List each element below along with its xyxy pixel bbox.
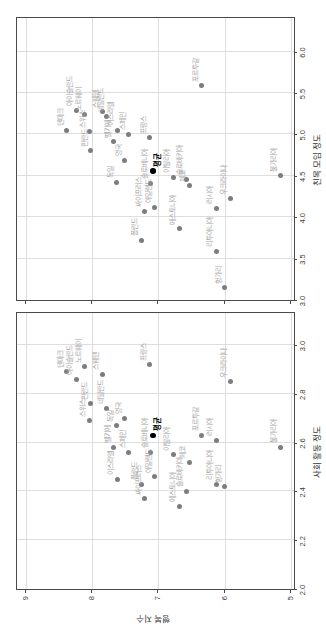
point-label: 스웨덴 bbox=[92, 352, 99, 370]
x-tick-label: 3.0 bbox=[298, 296, 307, 306]
x-tick-mark bbox=[294, 176, 297, 177]
data-point bbox=[114, 180, 119, 185]
point-label: 스위스 bbox=[79, 399, 86, 417]
x-gridline bbox=[17, 393, 294, 394]
y-tick-mark bbox=[290, 590, 291, 593]
x-tick-label: 2.4 bbox=[298, 487, 307, 497]
scatter-figure: 덴마크아이슬란드노르웨이스위스핀란드스웨덴네덜란드벨기에독일이스라엘영국스페인폴… bbox=[0, 0, 326, 632]
y-tick-mark bbox=[157, 301, 158, 304]
x-gridline bbox=[17, 442, 294, 443]
point-label: 헝가리 bbox=[215, 266, 222, 284]
point-label: 핀란드 bbox=[81, 382, 88, 400]
point-label: 불가리아 bbox=[270, 419, 277, 443]
data-point bbox=[177, 226, 182, 231]
data-point bbox=[82, 364, 87, 369]
data-point bbox=[126, 132, 131, 137]
data-point bbox=[214, 438, 219, 443]
screenshot-root: { "figure": { "colors": { "dot": "#7d7d7… bbox=[0, 0, 326, 632]
data-point bbox=[214, 249, 219, 254]
y-gridline bbox=[26, 313, 27, 589]
point-label: 체코 bbox=[179, 446, 186, 458]
point-label: 프랑스 bbox=[140, 116, 147, 134]
plot-area-social-gathering: 덴마크아이슬란드노르웨이스위스핀란드스웨덴네덜란드벨기에독일이스라엘영국스페인폴… bbox=[16, 17, 295, 301]
point-label: 이스라엘 bbox=[107, 451, 114, 475]
point-label: 리투아니아 bbox=[206, 217, 213, 247]
data-point bbox=[278, 173, 283, 178]
y-tick-mark bbox=[224, 301, 225, 304]
x-gridline bbox=[17, 490, 294, 491]
data-point bbox=[147, 135, 152, 140]
point-label: 이스라엘 bbox=[107, 102, 114, 126]
point-label: 스페인 bbox=[119, 112, 126, 130]
data-point bbox=[122, 158, 127, 163]
y-tick-label: 6 bbox=[219, 596, 228, 620]
point-label: 싸이프러스 bbox=[135, 177, 142, 207]
point-label: 헝가리 bbox=[215, 465, 222, 483]
point-label: 아일랜드 bbox=[145, 449, 152, 473]
point-label: 독일 bbox=[107, 166, 114, 178]
x-gridline bbox=[17, 216, 294, 217]
point-label: 프랑스 bbox=[140, 343, 147, 361]
y-tick-mark bbox=[25, 301, 26, 304]
point-label: 슬로바키아 bbox=[176, 457, 183, 487]
x-tick-mark bbox=[294, 589, 297, 590]
x-tick-label: 2.2 bbox=[298, 536, 307, 546]
point-label: 네덜란드 bbox=[97, 380, 104, 404]
data-point bbox=[139, 238, 144, 243]
y-gridline bbox=[225, 18, 226, 300]
x-axis-label-social-gathering: 친목 모임 정도 bbox=[310, 134, 322, 187]
data-point bbox=[228, 379, 233, 384]
mean-point-label: 평균 bbox=[154, 417, 162, 431]
point-label: 영국 bbox=[115, 402, 122, 414]
x-tick-mark bbox=[294, 300, 297, 301]
point-label: 체코 bbox=[179, 170, 186, 182]
x-tick-mark bbox=[294, 217, 297, 218]
x-tick-label: 2.6 bbox=[298, 438, 307, 448]
point-label: 네덜란드 bbox=[97, 88, 104, 112]
data-point bbox=[171, 175, 176, 180]
point-label: 리투아니아 bbox=[206, 450, 213, 480]
x-tick-mark bbox=[294, 134, 297, 135]
y-tick-mark bbox=[157, 590, 158, 593]
rotated-chart-stage: 덴마크아이슬란드노르웨이스위스핀란드스웨덴네덜란드벨기에독일이스라엘영국스페인폴… bbox=[0, 0, 326, 632]
x-gridline bbox=[17, 175, 294, 176]
point-label: 불가리아 bbox=[270, 148, 277, 172]
x-tick-label: 4.5 bbox=[298, 172, 307, 182]
data-point bbox=[222, 285, 227, 290]
x-tick-label: 2.8 bbox=[298, 390, 307, 400]
y-tick-mark bbox=[91, 301, 92, 304]
point-label: 에스토니아 bbox=[169, 195, 176, 225]
data-point bbox=[111, 445, 116, 450]
point-label: 싸이프러스 bbox=[135, 465, 142, 495]
point-label: 핀란드 bbox=[81, 129, 88, 147]
x-gridline bbox=[17, 133, 294, 134]
data-point bbox=[278, 445, 283, 450]
x-tick-label: 2.0 bbox=[298, 585, 307, 595]
point-label: 폴란드 bbox=[131, 218, 138, 236]
x-tick-label: 6.0 bbox=[298, 47, 307, 57]
data-point bbox=[100, 372, 105, 377]
point-label: 슬로베니아 bbox=[141, 149, 148, 179]
data-point bbox=[152, 205, 157, 210]
point-label: 벨기에 bbox=[104, 425, 111, 443]
point-label: 포르투갈 bbox=[192, 58, 199, 82]
point-label: 스위스 bbox=[79, 110, 86, 128]
y-tick-mark bbox=[290, 301, 291, 304]
data-point bbox=[147, 362, 152, 367]
point-label: 러시아 bbox=[206, 186, 213, 204]
data-point bbox=[122, 416, 127, 421]
x-tick-mark bbox=[294, 259, 297, 260]
x-tick-mark bbox=[294, 93, 297, 94]
plot-area-social-activity: 덴마크아이슬란드노르웨이스위스핀란드스웨덴네덜란드벨기에독일이스라엘영국스페인폴… bbox=[16, 312, 295, 590]
data-point bbox=[126, 450, 131, 455]
point-label: 노르웨이 bbox=[75, 87, 82, 111]
point-label: 스페인 bbox=[119, 430, 126, 448]
y-gridline bbox=[291, 18, 292, 300]
x-gridline bbox=[17, 51, 294, 52]
y-tick-mark bbox=[224, 590, 225, 593]
x-gridline bbox=[17, 539, 294, 540]
x-tick-label: 4.0 bbox=[298, 213, 307, 223]
data-point bbox=[177, 504, 182, 509]
y-tick-label: 5 bbox=[286, 596, 295, 620]
data-point bbox=[115, 477, 120, 482]
